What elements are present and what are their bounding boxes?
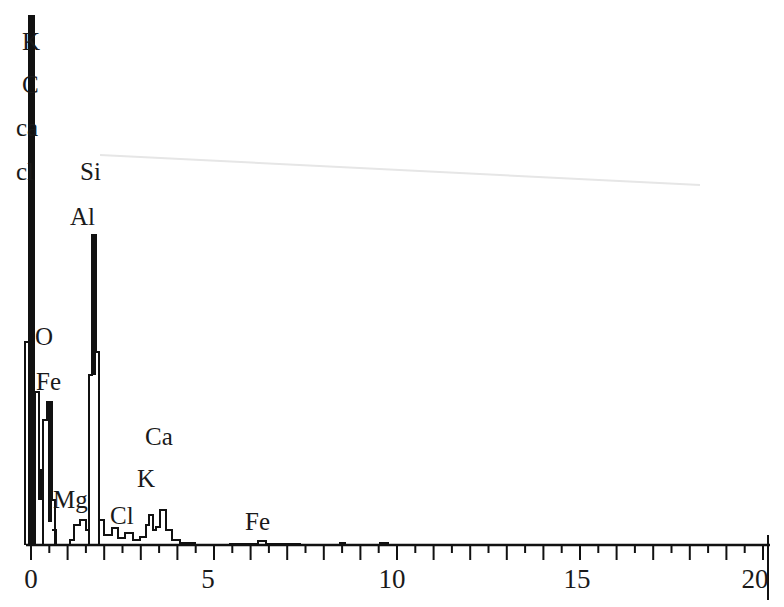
label-Al: Al [70, 203, 95, 230]
spectrum-trace [25, 15, 760, 545]
label-cl: cl [16, 158, 34, 185]
scan-artifact-line [100, 155, 700, 185]
label-ca: ca [16, 114, 38, 141]
x-tick-label-10: 10 [379, 564, 406, 594]
label-Mg: Mg [53, 486, 88, 513]
x-tick-label-15: 15 [564, 564, 591, 594]
label-K-top: K [22, 28, 40, 55]
label-Cl: Cl [110, 502, 134, 529]
eds-spectrum-chart: 0 5 10 15 20 K C ca cl Si Al O Fe Ca [0, 0, 784, 607]
x-tick-label-20: 20 [742, 564, 769, 594]
label-Fe-low: Fe [36, 368, 61, 395]
label-K: K [137, 465, 155, 492]
label-C: C [22, 71, 39, 98]
label-Si: Si [80, 158, 101, 185]
label-Fe-high: Fe [245, 508, 270, 535]
x-tick-label-5: 5 [201, 564, 215, 594]
x-axis-ticks [31, 545, 763, 560]
label-O: O [35, 323, 53, 350]
peak-labels: K C ca cl Si Al O Fe Ca K Mg Cl Fe [16, 28, 270, 535]
label-Ca: Ca [145, 423, 173, 450]
x-tick-label-0: 0 [24, 564, 38, 594]
